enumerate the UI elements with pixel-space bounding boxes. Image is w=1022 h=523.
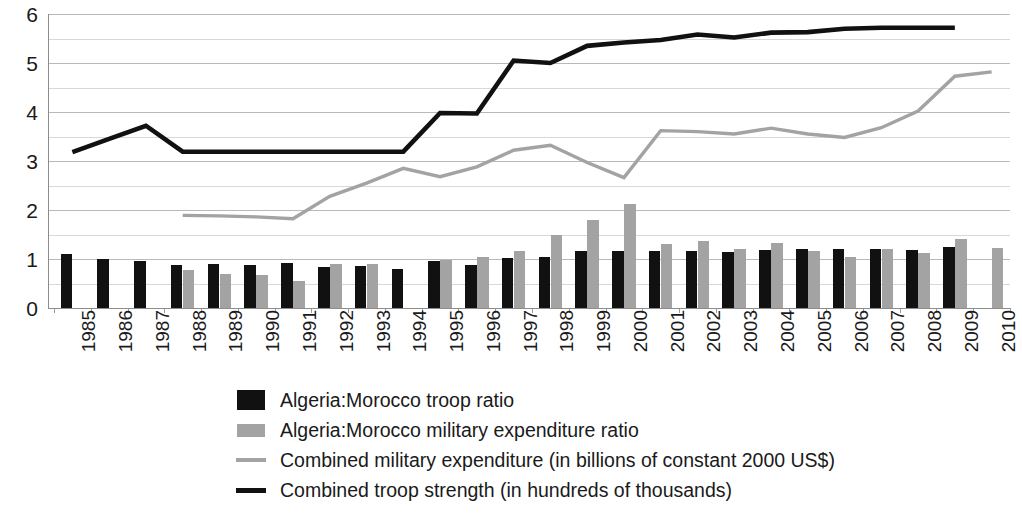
x-axis-labels: 1985198619871988198919901991199219931994… (48, 310, 1010, 388)
legend-swatch-expenditure-ratio-icon (236, 415, 266, 445)
x-axis-tick-label: 1991 (300, 310, 319, 352)
legend-line-combined-troops-icon (236, 475, 266, 505)
legend-label: Combined military expenditure (in billio… (280, 449, 835, 471)
legend-item: Algeria:Morocco military expenditure rat… (236, 415, 936, 445)
x-axis-tick-label: 2005 (815, 310, 834, 352)
x-axis-tick-label: 2000 (631, 310, 650, 352)
y-axis-tick-label: 2 (26, 200, 38, 221)
x-axis-tick-label: 1992 (337, 310, 356, 352)
legend-label: Algeria:Morocco troop ratio (280, 389, 514, 411)
x-axis-tick-label: 1988 (190, 310, 209, 352)
x-axis-tick-label: 2003 (741, 310, 760, 352)
x-axis-tick-label: 1997 (521, 310, 540, 352)
y-axis-tick-label: 0 (26, 298, 38, 319)
x-axis-tick-label: 1999 (594, 310, 613, 352)
x-axis-tick-label: 2002 (704, 310, 723, 352)
chart-plot-region: 0123456 19851986198719881989199019911992… (0, 0, 1022, 330)
x-axis-tick-label: 1990 (263, 310, 282, 352)
x-axis-tick-label: 1989 (226, 310, 245, 352)
line-layer (48, 0, 1010, 330)
y-axis-tick-label: 3 (26, 151, 38, 172)
x-axis-tick-label: 1987 (153, 310, 172, 352)
legend-item: Combined military expenditure (in billio… (236, 445, 936, 475)
y-axis-tick-label: 1 (26, 249, 38, 270)
legend-label: Algeria:Morocco military expenditure rat… (280, 419, 639, 441)
plot-area (48, 0, 1010, 330)
x-axis-tick-label: 1998 (557, 310, 576, 352)
legend-line-combined-expenditure-icon (236, 445, 266, 475)
x-axis-tick-label: 1996 (484, 310, 503, 352)
x-axis-tick-label: 1995 (447, 310, 466, 352)
x-axis-tick-label: 2008 (925, 310, 944, 352)
line-series (72, 28, 954, 152)
x-axis-tick-label: 1986 (116, 310, 135, 352)
y-axis-tick-label: 5 (26, 53, 38, 74)
x-axis-tick-label: 2010 (999, 310, 1018, 352)
y-axis-tick-label: 4 (26, 102, 38, 123)
legend-item: Algeria:Morocco troop ratio (236, 385, 936, 415)
y-axis-labels: 0123456 (0, 0, 48, 330)
y-axis-tick-label: 6 (26, 4, 38, 25)
x-axis-tick-label: 2004 (778, 310, 797, 352)
chart-figure: 0123456 19851986198719881989199019911992… (0, 0, 1022, 523)
x-axis-tick-label: 2009 (962, 310, 981, 352)
chart-legend: Algeria:Morocco troop ratio Algeria:Moro… (236, 385, 936, 505)
line-series (183, 72, 992, 219)
x-axis-tick-label: 2007 (888, 310, 907, 352)
x-axis-tick-label: 2006 (852, 310, 871, 352)
legend-label: Combined troop strength (in hundreds of … (280, 479, 732, 501)
legend-swatch-troop-ratio-icon (236, 385, 266, 415)
x-axis-tick-label: 1994 (410, 310, 429, 352)
x-axis-tick-label: 2001 (668, 310, 687, 352)
x-axis-tick-label: 1985 (79, 310, 98, 352)
legend-item: Combined troop strength (in hundreds of … (236, 475, 936, 505)
x-axis-tick-label: 1993 (374, 310, 393, 352)
